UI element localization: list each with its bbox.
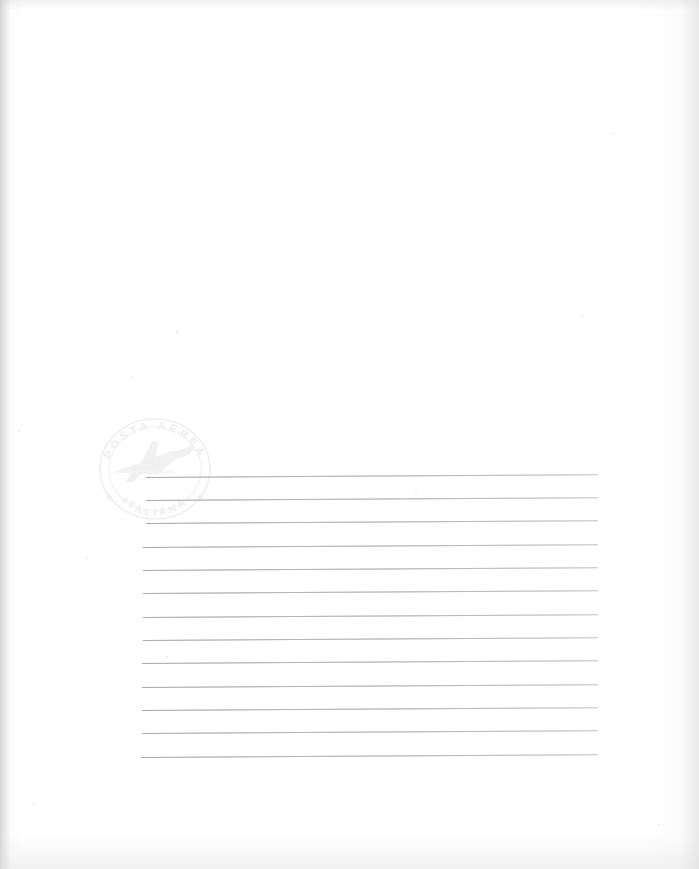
scanned-page: POSTA AEREA ITALIANA ★ ★ bbox=[0, 0, 699, 869]
paper-surface bbox=[0, 0, 699, 869]
